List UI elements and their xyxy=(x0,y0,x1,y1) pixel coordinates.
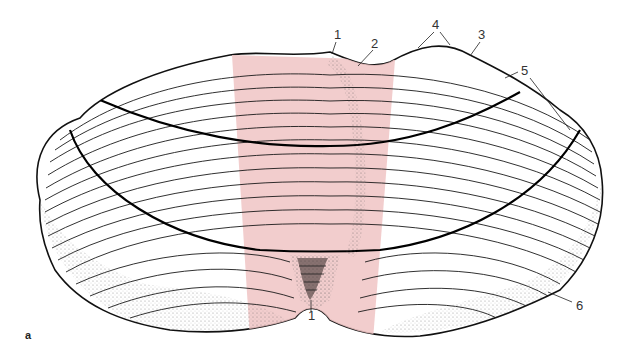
cerebellum-figure: 1 2 4 3 5 6 1 a xyxy=(0,0,626,357)
label-2: 2 xyxy=(371,37,378,50)
label-5: 5 xyxy=(521,64,528,77)
label-1-bottom: 1 xyxy=(308,309,315,322)
cerebellum-drawing xyxy=(0,0,626,357)
label-3: 3 xyxy=(478,28,485,41)
panel-letter: a xyxy=(25,329,31,341)
label-6: 6 xyxy=(576,299,583,312)
label-4: 4 xyxy=(432,18,439,31)
label-1-top: 1 xyxy=(334,28,341,41)
